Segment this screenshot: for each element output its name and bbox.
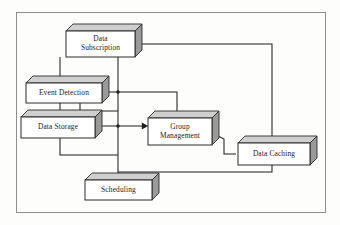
node-top-face — [148, 111, 219, 118]
node-layer: DataSubscriptionEvent DetectionData Stor… — [21, 24, 317, 200]
node-data-caching[interactable]: Data Caching — [238, 136, 317, 165]
node-top-face — [26, 76, 109, 83]
connector-data-storage-bottom-loop — [60, 138, 118, 155]
node-label: Data — [93, 34, 108, 43]
node-data-subscription[interactable]: DataSubscription — [66, 24, 142, 57]
block-diagram: DataSubscriptionEvent DetectionData Stor… — [0, 0, 340, 225]
node-label: Subscription — [81, 43, 120, 52]
node-label: Data Storage — [38, 122, 79, 131]
node-scheduling[interactable]: Scheduling — [85, 173, 159, 200]
node-label: Scheduling — [101, 185, 136, 194]
node-top-face — [66, 24, 142, 31]
node-label: Management — [160, 131, 201, 140]
junction-dot-icon — [116, 90, 119, 93]
junction-dot-icon — [116, 124, 119, 127]
node-top-face — [21, 110, 102, 117]
node-group-management[interactable]: GroupManagement — [148, 111, 219, 145]
connector-data-caching-to-scheduling — [118, 165, 272, 172]
connector-line — [118, 165, 272, 172]
connector-subscription-to-scheduling-trunk — [114, 57, 121, 180]
node-event-detection[interactable]: Event Detection — [26, 76, 109, 103]
node-label: Data Caching — [253, 149, 295, 158]
diagram-canvas: DataSubscriptionEvent DetectionData Stor… — [0, 0, 340, 225]
node-top-face — [238, 136, 317, 143]
node-top-face — [85, 173, 159, 180]
arrowhead-icon — [142, 123, 148, 130]
node-label: Group — [170, 122, 190, 131]
node-label: Event Detection — [39, 88, 89, 97]
connector-line — [60, 138, 118, 155]
connector-data-storage-to-group-management — [102, 123, 148, 130]
node-data-storage[interactable]: Data Storage — [21, 110, 102, 138]
